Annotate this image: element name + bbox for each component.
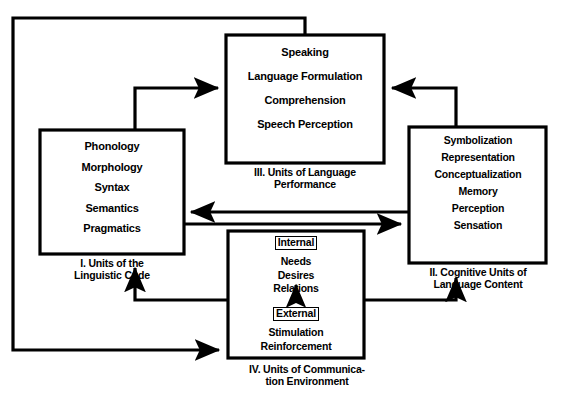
box-1-caption-line-2: Linguistic Code [27, 270, 197, 282]
box-2-item: Conceptualization [410, 169, 546, 180]
figure-canvas: Phonology Morphology Syntax Semantics Pr… [0, 0, 561, 395]
box-3-item: Language Formulation [226, 71, 384, 82]
box-2-items: Symbolization Representation Conceptuali… [410, 135, 546, 237]
box-2-caption: II. Cognitive Units of Language Content [398, 267, 558, 291]
box-3-items: Speaking Language Formulation Comprehens… [226, 47, 384, 143]
box-2-item: Representation [410, 152, 546, 163]
box-4-external-group: External Stimulation Reinforcement [229, 307, 363, 354]
box-3-caption: III. Units of Language Performance [212, 167, 398, 191]
arrow-box2-to-box3-path [392, 88, 456, 127]
box-2-item: Symbolization [410, 135, 546, 146]
box-3-caption-line-1: III. Units of Language [212, 167, 398, 179]
box-3-item: Speaking [226, 47, 384, 58]
internal-label: Internal [275, 236, 317, 250]
box-4-external-item: Reinforcement [229, 341, 363, 352]
box-1-item: Syntax [40, 182, 184, 193]
box-4-internal-item: Desires [229, 270, 363, 281]
box-4-caption-line-2: tion Environment [212, 376, 402, 388]
box-4-internal-group: Internal Needs Desires Relations [229, 236, 363, 297]
box-3-item: Speech Perception [226, 119, 384, 130]
box-4-internal-label-wrap: Internal [229, 236, 363, 253]
external-label: External [273, 307, 319, 321]
box-1-item: Phonology [40, 141, 184, 152]
box-2-item: Sensation [410, 220, 546, 231]
box-4-external-item: Stimulation [229, 327, 363, 338]
box-1-item: Semantics [40, 203, 184, 214]
box-3-caption-line-2: Performance [212, 179, 398, 191]
box-2-caption-line-1: II. Cognitive Units of [398, 267, 558, 279]
box-2-caption-line-2: Language Content [398, 279, 558, 291]
box-1-items: Phonology Morphology Syntax Semantics Pr… [40, 141, 184, 244]
box-1-item: Morphology [40, 162, 184, 173]
box-1-item: Pragmatics [40, 223, 184, 234]
box-4-internal-item: Needs [229, 256, 363, 267]
arrow-box1-to-box3-path [135, 88, 218, 130]
box-4-caption-line-1: IV. Units of Communica- [212, 364, 402, 376]
box-1-caption-line-1: I. Units of the [27, 258, 197, 270]
box-3-item: Comprehension [226, 95, 384, 106]
box-2-item: Perception [410, 203, 546, 214]
box-4-caption: IV. Units of Communica- tion Environment [212, 364, 402, 388]
box-4-external-label-wrap: External [229, 307, 363, 324]
box-4-internal-item: Relations [229, 283, 363, 294]
box-2-item: Memory [410, 186, 546, 197]
box-1-caption: I. Units of the Linguistic Code [27, 258, 197, 282]
